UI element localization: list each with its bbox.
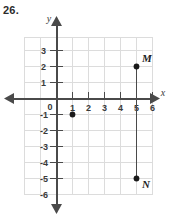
origin-tick-label: 0 xyxy=(47,102,52,112)
x-axis-label: x xyxy=(160,87,166,98)
y-tick-label-neg4: -4 xyxy=(40,158,48,168)
y-tick-label-1: 1 xyxy=(41,78,46,88)
point-label-n: N xyxy=(141,178,151,190)
worksheet-problem-figure: 26. xyxy=(0,0,174,217)
x-axis-left-arrow xyxy=(4,93,14,104)
x-tick-label-4: 4 xyxy=(118,103,123,113)
y-tick-label-neg1: -1 xyxy=(40,110,48,120)
point-label-m: M xyxy=(141,52,153,64)
y-tick-label-neg5: -5 xyxy=(40,174,48,184)
x-tick-label-2: 2 xyxy=(86,103,91,113)
y-axis-down-arrow xyxy=(51,204,62,214)
coordinate-plane-graph: x y 0 1 2 3 4 5 6 3 2 1 -1 -2 -3 -4 -5 -… xyxy=(0,0,174,217)
point-m xyxy=(134,64,140,70)
point-n xyxy=(134,176,140,182)
x-tick-label-1: 1 xyxy=(70,103,75,113)
y-axis-label: y xyxy=(46,13,52,24)
y-tick-label-3: 3 xyxy=(41,46,46,56)
point-unlabeled xyxy=(70,112,76,118)
x-tick-label-3: 3 xyxy=(102,103,107,113)
y-tick-label-neg6: -6 xyxy=(40,190,48,200)
y-tick-label-2: 2 xyxy=(41,62,46,72)
y-tick-label-neg3: -3 xyxy=(40,142,48,152)
y-axis-up-arrow xyxy=(51,16,62,26)
y-tick-label-neg2: -2 xyxy=(40,126,48,136)
x-tick-label-6: 6 xyxy=(150,103,155,113)
